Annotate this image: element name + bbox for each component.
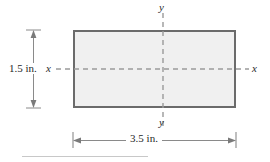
- width-dimension-label: 3.5 in.: [126, 132, 162, 144]
- x-axis-right-label: x: [252, 63, 257, 74]
- y-axis-top-label: y: [159, 2, 164, 13]
- width-dimension-label-wrapper: 3.5 in.: [0, 133, 270, 144]
- y-axis-bottom-label: y: [159, 117, 164, 128]
- height-dimension-label: 1.5 in.: [8, 63, 38, 74]
- height-arrowhead-top: [31, 30, 37, 38]
- rectangle-cross-section-figure: y y x x 1.5 in. 3.5 in.: [0, 0, 270, 162]
- x-axis-left-label: x: [46, 63, 51, 74]
- height-arrowhead-bottom: [31, 100, 37, 108]
